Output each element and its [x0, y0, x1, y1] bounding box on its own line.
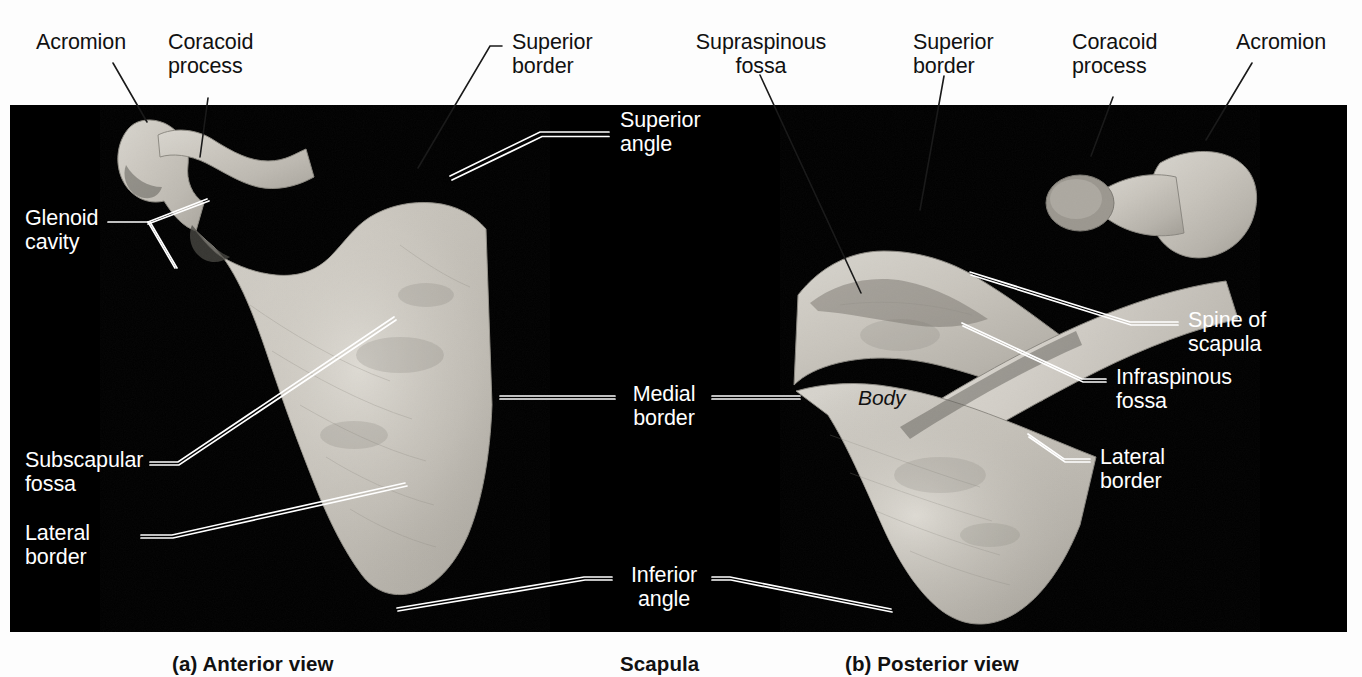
label-spine-of-scapula: Spine of scapula — [1188, 308, 1266, 357]
label-inferior-angle: Inferior angle — [616, 563, 712, 612]
label-medial-border: Medial border — [616, 382, 712, 431]
label-acromion-right: Acromion — [1236, 30, 1326, 54]
label-superior-border-left: Superior border — [512, 30, 592, 79]
label-superior-angle: Superior angle — [620, 108, 700, 157]
label-coracoid-process-right: Coracoid process — [1072, 30, 1157, 79]
label-superior-border-right: Superior border — [913, 30, 993, 79]
caption-anterior-view: (a) Anterior view — [172, 652, 334, 676]
label-acromion-left: Acromion — [36, 30, 126, 54]
label-body: Body — [858, 386, 905, 410]
label-supraspinous-fossa: Supraspinous fossa — [673, 30, 849, 79]
scapula-figure: Acromion Coracoid process Superior borde… — [0, 0, 1362, 677]
label-infraspinous-fossa: Infraspinous fossa — [1116, 365, 1232, 414]
caption-scapula: Scapula — [620, 652, 699, 676]
label-coracoid-process-left: Coracoid process — [168, 30, 253, 79]
label-subscapular-fossa: Subscapular fossa — [25, 448, 143, 497]
label-glenoid-cavity: Glenoid cavity — [25, 206, 98, 255]
label-lateral-border-right: Lateral border — [1100, 445, 1165, 494]
caption-posterior-view: (b) Posterior view — [845, 652, 1019, 676]
label-lateral-border-left: Lateral border — [25, 521, 90, 570]
anterior-scapula-bone — [100, 105, 550, 632]
